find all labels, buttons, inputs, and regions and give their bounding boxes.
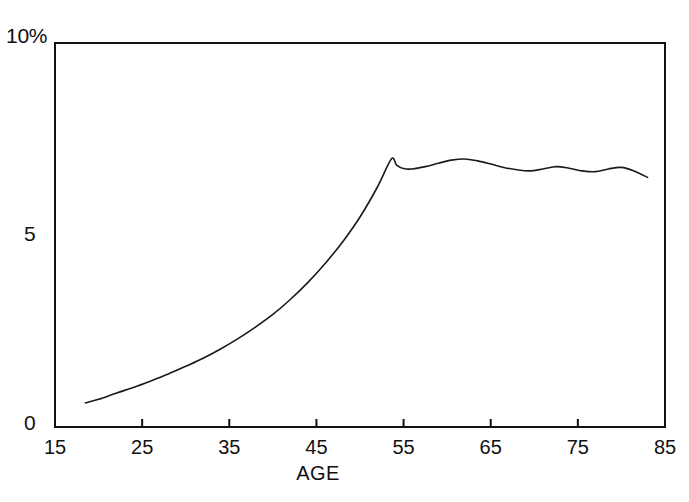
plot-border	[55, 43, 665, 427]
chart-container: 10% 5 0 1525354555657585 AGE	[0, 0, 689, 502]
plot-frame	[55, 43, 665, 427]
data-series-group	[86, 158, 648, 403]
x-axis-ticks	[142, 419, 578, 427]
data-line	[86, 158, 648, 403]
plot-area	[0, 0, 689, 502]
